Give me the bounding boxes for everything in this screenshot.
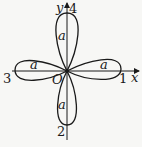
four-petal-rose-diagram: y 4 x 1 3 2 O a a a a <box>0 0 142 147</box>
origin-label: O <box>52 72 63 87</box>
petal-label-down: a <box>58 97 66 112</box>
petal-label-right: a <box>100 57 108 72</box>
tip-label-right: 1 <box>119 71 127 86</box>
petal-right <box>67 59 121 79</box>
origin-point <box>65 69 69 73</box>
y-axis-label: y <box>55 0 64 15</box>
tip-label-up: 4 <box>69 1 77 16</box>
x-axis-label: x <box>131 70 139 85</box>
tip-label-down: 2 <box>57 124 65 139</box>
tip-label-left: 3 <box>3 71 11 86</box>
petal-label-left: a <box>30 57 38 72</box>
petal-label-up: a <box>58 28 66 43</box>
